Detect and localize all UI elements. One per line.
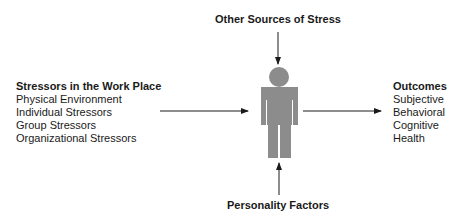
right-title: Outcomes [393,79,447,93]
top-label: Other Sources of Stress [215,13,341,25]
right-item: Cognitive [393,119,447,132]
left-item: Physical Environment [16,93,161,106]
left-block: Stressors in the Work Place Physical Env… [16,79,161,145]
left-item: Individual Stressors [16,106,161,119]
bottom-label: Personality Factors [227,199,329,211]
right-item: Subjective [393,93,447,106]
left-item: Group Stressors [16,119,161,132]
right-item: Health [393,132,447,145]
right-item: Behavioral [393,106,447,119]
left-item: Organizational Stressors [16,132,161,145]
left-title: Stressors in the Work Place [16,79,161,93]
right-block: Outcomes Subjective Behavioral Cognitive… [393,79,447,145]
